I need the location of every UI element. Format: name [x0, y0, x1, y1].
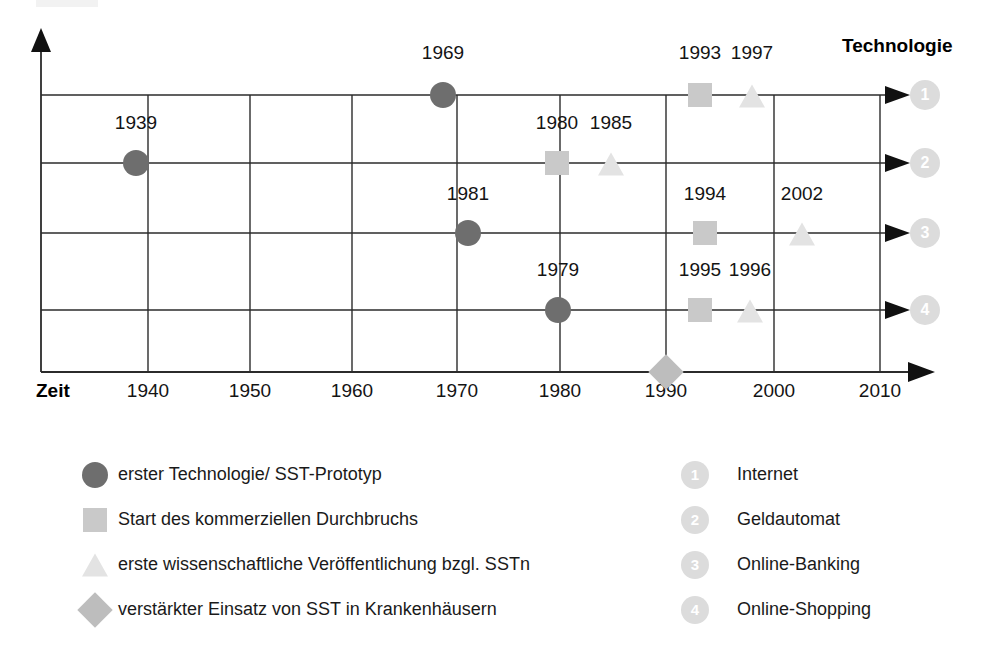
circle-marker-icon: [545, 297, 571, 323]
chart-area: Technologie Zeit 1940 1950 1960 1970 198…: [0, 0, 986, 430]
row-badge-2: 2: [910, 148, 940, 178]
year-label-1994: 1994: [684, 183, 726, 205]
row-badge-1: 1: [910, 80, 940, 110]
marker-commercial-1994: [693, 221, 717, 245]
year-label-1981: 1981: [447, 183, 489, 205]
year-label-1969: 1969: [422, 42, 464, 64]
legend-item-geldautomat: 2 Geldautomat: [672, 497, 972, 542]
row-badge-3: 3: [681, 551, 709, 579]
legend-label: erster Technologie/ SST-Prototyp: [118, 464, 382, 485]
legend-symbol-square: [72, 503, 118, 537]
y-axis-title: Technologie: [842, 35, 952, 57]
triangle-marker-icon: [737, 300, 763, 323]
marker-commercial-1993: [688, 83, 712, 107]
legend-label: erste wissenschaftliche Veröffentlichung…: [118, 554, 530, 575]
marker-commercial-1995: [688, 298, 712, 322]
marker-commercial-1980: [545, 151, 569, 175]
x-tick-label: 1960: [331, 380, 373, 402]
marker-publication-2002: [789, 223, 815, 246]
legend-symbol-triangle: [72, 548, 118, 582]
legend-label: Online-Banking: [737, 554, 860, 575]
legend-symbol-circle: [72, 458, 118, 492]
square-marker-icon: [688, 298, 712, 322]
legend-label: Start des kommerziellen Durchbruchs: [118, 509, 418, 530]
marker-prototype-1939: [123, 150, 149, 176]
year-label-1980: 1980: [536, 112, 578, 134]
row-badge-2: 2: [681, 506, 709, 534]
row-badge-1: 1: [681, 461, 709, 489]
triangle-marker-icon: [82, 553, 108, 576]
year-label-2002: 2002: [781, 183, 823, 205]
year-label-1996: 1996: [729, 259, 771, 281]
square-marker-icon: [545, 151, 569, 175]
marker-publication-1985: [598, 153, 624, 176]
marker-prototype-1979: [545, 297, 571, 323]
chart-grid: [0, 0, 986, 430]
square-marker-icon: [688, 83, 712, 107]
legend-label: Internet: [737, 464, 798, 485]
legend-label: Geldautomat: [737, 509, 840, 530]
row-badge-3: 3: [910, 218, 940, 248]
year-label-1985: 1985: [590, 112, 632, 134]
legend-item-internet: 1 Internet: [672, 452, 972, 497]
row-badge-4: 4: [910, 295, 940, 325]
legend-item-hospital: verstärkter Einsatz von SST in Krankenhä…: [72, 587, 542, 632]
triangle-marker-icon: [789, 223, 815, 246]
x-tick-label: 1940: [127, 380, 169, 402]
circle-marker-icon: [82, 462, 108, 488]
legend-symbols: erster Technologie/ SST-Prototyp Start d…: [72, 452, 542, 632]
x-axis-title: Zeit: [36, 380, 70, 402]
marker-publication-1996: [737, 300, 763, 323]
legend-item-commercial: Start des kommerziellen Durchbruchs: [72, 497, 542, 542]
square-marker-icon: [83, 508, 107, 532]
circle-marker-icon: [430, 82, 456, 108]
legend-item-prototype: erster Technologie/ SST-Prototyp: [72, 452, 542, 497]
x-tick-label: 1980: [539, 380, 581, 402]
timeline-chart-page: Technologie Zeit 1940 1950 1960 1970 198…: [0, 0, 986, 661]
legend-symbol-diamond: [72, 593, 118, 627]
triangle-marker-icon: [598, 153, 624, 176]
year-label-1939: 1939: [115, 112, 157, 134]
diamond-marker-icon: [77, 592, 112, 627]
marker-prototype-1969: [430, 82, 456, 108]
x-tick-label: 1950: [229, 380, 271, 402]
x-tick-label: 1970: [436, 380, 478, 402]
year-label-1995: 1995: [679, 259, 721, 281]
legend-label: verstärkter Einsatz von SST in Krankenhä…: [118, 599, 497, 620]
marker-publication-1997: [739, 85, 765, 108]
triangle-marker-icon: [739, 85, 765, 108]
legend-item-online-shopping: 4 Online-Shopping: [672, 587, 972, 632]
square-marker-icon: [693, 221, 717, 245]
legend-item-publication: erste wissenschaftliche Veröffentlichung…: [72, 542, 542, 587]
legend-item-online-banking: 3 Online-Banking: [672, 542, 972, 587]
year-label-1997: 1997: [731, 42, 773, 64]
legend-label: Online-Shopping: [737, 599, 871, 620]
marker-prototype-1981: [455, 220, 481, 246]
circle-marker-icon: [123, 150, 149, 176]
circle-marker-icon: [455, 220, 481, 246]
year-label-1979: 1979: [537, 259, 579, 281]
x-tick-label: 2010: [859, 380, 901, 402]
x-tick-label: 2000: [753, 380, 795, 402]
row-badge-4: 4: [681, 596, 709, 624]
year-label-1993: 1993: [679, 42, 721, 64]
legend-technologies: 1 Internet 2 Geldautomat 3 Online-Bankin…: [672, 452, 972, 632]
